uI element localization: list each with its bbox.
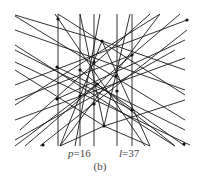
- point-count-label: p=16: [68, 147, 91, 159]
- point-node: [95, 82, 98, 85]
- point-node: [78, 68, 81, 71]
- line-segment: [60, 14, 160, 146]
- line-count-label: l=37: [119, 147, 139, 159]
- point-node: [182, 142, 185, 145]
- point-node: [130, 53, 133, 56]
- point-node: [78, 94, 81, 97]
- line-segment: [15, 30, 185, 90]
- point-node: [92, 60, 95, 63]
- line-segment: [15, 84, 97, 146]
- point-node: [185, 18, 188, 21]
- line-segment: [15, 55, 132, 100]
- point-node: [100, 39, 103, 42]
- point-node: [92, 102, 95, 105]
- point-node: [55, 65, 58, 68]
- line-segment: [104, 126, 150, 146]
- point-node: [55, 97, 58, 100]
- point-node: [56, 17, 59, 20]
- line-count-value: =37: [122, 147, 139, 159]
- point-node: [115, 89, 118, 92]
- subfigure-label: (b): [0, 160, 200, 172]
- line-segment: [55, 14, 145, 146]
- point-node: [102, 124, 105, 127]
- point-node: [130, 108, 133, 111]
- point-line-figure: [0, 0, 200, 150]
- point-count-value: =16: [74, 147, 91, 159]
- point-node: [114, 74, 117, 77]
- figure-caption: p=16 l=37: [0, 147, 200, 161]
- line-segment: [57, 40, 185, 99]
- line-segment: [15, 20, 187, 85]
